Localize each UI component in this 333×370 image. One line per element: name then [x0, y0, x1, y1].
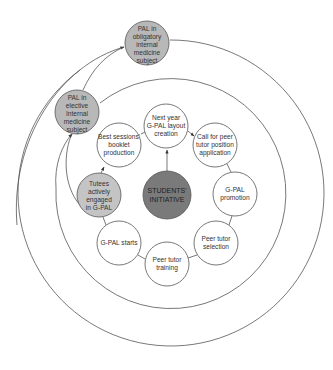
node-label: G-PAL layout — [147, 122, 186, 130]
node-label: Internal — [66, 110, 89, 117]
node-label: Call for peer — [197, 133, 234, 141]
outer-node-pal-elective[interactable]: PAL in elective Internal medicine subjec… — [55, 90, 99, 134]
node-label: subject — [137, 57, 158, 65]
cycle-node-gpal-starts[interactable]: G-PAL starts — [97, 221, 141, 265]
cycle-node-next-year[interactable]: Next year G-PAL layout creation — [144, 104, 188, 148]
node-label: obligatory — [133, 33, 162, 41]
node-label: in G-PAL — [86, 204, 113, 211]
node-label: engaged — [86, 196, 112, 204]
node-label: PAL in — [68, 94, 87, 101]
cycle-node-call-peer[interactable]: Call for peer tutor position application — [193, 123, 237, 167]
node-label: creation — [154, 130, 178, 137]
center-node-label-line-2: INITIATIVE — [150, 196, 185, 203]
node-label: Tutees — [89, 180, 110, 187]
node-label: G-PAL starts — [100, 239, 138, 246]
node-label: Peer tutor — [202, 235, 232, 242]
cycle-node-peer-selection[interactable]: Peer tutor selection — [194, 221, 238, 265]
g-pal-cycle-diagram: STUDENTS' INITIATIVE Next year G-PAL lay… — [0, 0, 333, 370]
node-label: G-PAL — [225, 186, 245, 193]
cycle-node-peer-training[interactable]: Peer tutor training — [145, 242, 189, 286]
outer-node-pal-obligatory[interactable]: PAL in obligatory internal medicine subj… — [125, 21, 169, 65]
arrow-ring-to-elective — [56, 134, 72, 188]
node-label: promotion — [220, 194, 250, 202]
center-node-label-line-1: STUDENTS' — [147, 187, 186, 194]
node-label: actively — [88, 188, 111, 196]
node-label: Best sessions' — [98, 133, 140, 140]
node-label: selection — [203, 243, 229, 250]
center-node-students-initiative[interactable]: STUDENTS' INITIATIVE — [143, 171, 191, 219]
node-label: Peer tutor — [153, 256, 183, 263]
node-label: elective — [66, 102, 89, 109]
cycle-node-gpal-promotion[interactable]: G-PAL promotion — [213, 172, 257, 216]
node-label: internal — [136, 41, 158, 48]
node-label: booklet — [108, 141, 129, 148]
node-label: tutor position — [196, 141, 234, 149]
node-label: medicine — [134, 49, 161, 56]
cycle-node-best-sessions[interactable]: Best sessions' booklet production — [97, 123, 141, 167]
node-label: application — [199, 149, 231, 157]
node-label: medicine — [64, 118, 91, 125]
node-label: Next year — [152, 114, 181, 122]
cycle-node-tutees-engaged[interactable]: Tutees actively engaged in G-PAL — [77, 173, 121, 217]
node-label: PAL in — [138, 25, 157, 32]
node-label: production — [104, 149, 135, 157]
node-label: subject — [67, 126, 88, 134]
arrow-elective-to-obligatory — [83, 47, 124, 90]
node-label: training — [156, 264, 178, 272]
